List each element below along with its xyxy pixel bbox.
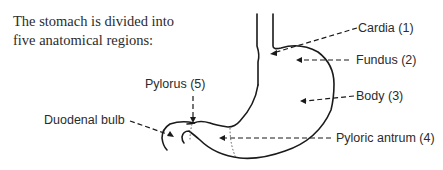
- cardia-leader: [273, 28, 357, 53]
- pylorus-boundary: [190, 124, 192, 140]
- duodenal-bulb-outline: [162, 122, 194, 150]
- esophagus-left-wall: [257, 14, 259, 85]
- stomach-diagram: The stomach is divided into five anatomi…: [0, 0, 443, 170]
- antrum-boundary: [230, 128, 236, 158]
- label-body: Body (3): [356, 89, 403, 103]
- label-cardia: Cardia (1): [358, 21, 414, 35]
- label-pyloric-antrum: Pyloric antrum (4): [336, 131, 435, 145]
- label-fundus: Fundus (2): [356, 53, 416, 67]
- lesser-curvature: [194, 85, 258, 127]
- duodenal-bulb-leader: [130, 121, 170, 135]
- label-pylorus: Pylorus (5): [145, 77, 205, 91]
- label-duodenal-bulb: Duodenal bulb: [44, 113, 125, 127]
- body-leader: [305, 96, 354, 101]
